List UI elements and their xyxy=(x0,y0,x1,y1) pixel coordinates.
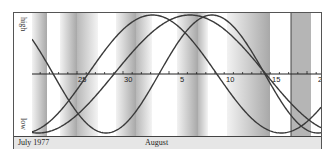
plot-svg: 25305101520 xyxy=(32,13,321,136)
month-label-august: August xyxy=(145,138,168,147)
y-label-high: high xyxy=(15,17,31,31)
x-tick-label: 5 xyxy=(180,75,184,84)
plot-area: 25305101520 xyxy=(32,13,321,136)
y-label-low: low xyxy=(15,118,31,130)
x-tick-label: 30 xyxy=(124,75,132,84)
month-bar: July 1977 August xyxy=(14,136,321,149)
x-tick-label: 10 xyxy=(226,75,234,84)
month-label-july: July 1977 xyxy=(18,138,49,147)
biorhythm-chart: high low 25305101520 July 1977 August xyxy=(13,12,322,149)
x-tick-label: 20 xyxy=(318,75,321,84)
y-axis-strip: high low xyxy=(14,13,33,136)
